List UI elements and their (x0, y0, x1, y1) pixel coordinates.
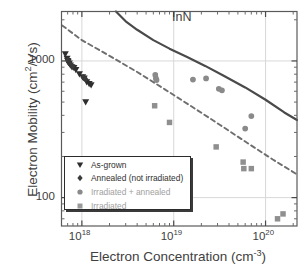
data-point (190, 77, 196, 83)
data-point (248, 113, 254, 119)
inn-curve-label: InN (172, 10, 191, 24)
legend-item: Irradiated + annealed (65, 186, 190, 198)
trend-curves (62, 12, 297, 175)
x-axis-label-text: Electron Concentration (cm (90, 249, 254, 264)
legend-marker-icon (73, 159, 87, 171)
data-point (203, 76, 209, 82)
y-axis-label-exponent: 2 (23, 66, 33, 71)
data-point (241, 166, 246, 171)
data-point (154, 77, 160, 83)
data-point (240, 159, 245, 164)
y-tick-label: 100 (36, 190, 55, 202)
legend-label: As-grown (91, 159, 126, 171)
legend-label: Irradiated (91, 200, 126, 212)
legend-label: Irradiated + annealed (91, 186, 170, 198)
legend-marker-icon (73, 172, 87, 184)
x-axis-label-exponent: -3 (253, 248, 261, 258)
data-point (152, 103, 157, 108)
x-tick-label: 1019 (161, 230, 183, 242)
data-point (219, 87, 225, 93)
legend: As-grownAnnealed (not irradiated)Irradia… (64, 156, 191, 210)
data-point (82, 99, 89, 105)
figure: InN Electron Mobility (cm2/Vs) Electron … (0, 0, 306, 273)
legend-label: Annealed (not irradiated) (91, 172, 183, 184)
x-axis-label: Electron Concentration (cm-3) (54, 249, 302, 264)
curve-solid (116, 12, 297, 120)
data-point (249, 166, 254, 171)
legend-marker-icon (73, 186, 87, 198)
y-tick-label: 1000 (29, 53, 55, 65)
x-axis-label-tail: ) (262, 249, 267, 264)
y-axis-label-text: Electron Mobility (cm (25, 71, 40, 196)
curve-dashed (62, 25, 297, 174)
x-tick-label: 1020 (253, 230, 275, 242)
x-tick-label: 1018 (69, 230, 91, 242)
legend-item: Irradiated (65, 200, 190, 212)
legend-item: Annealed (not irradiated) (65, 172, 190, 184)
data-point (242, 126, 248, 132)
data-point (213, 144, 218, 149)
data-point (167, 120, 172, 125)
data-point (280, 211, 285, 216)
legend-marker-icon (73, 200, 87, 212)
legend-item: As-grown (65, 159, 190, 171)
data-point (275, 216, 280, 221)
